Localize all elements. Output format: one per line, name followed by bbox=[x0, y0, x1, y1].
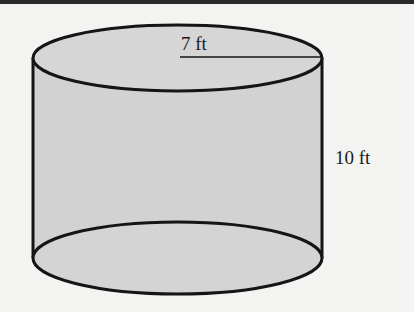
height-label: 10 ft bbox=[335, 147, 371, 168]
radius-label: 7 ft bbox=[181, 33, 208, 54]
cylinder-top-ellipse bbox=[33, 25, 322, 91]
cylinder-diagram: 7 ft 10 ft bbox=[0, 0, 414, 312]
cylinder-bottom-ellipse bbox=[33, 222, 322, 294]
